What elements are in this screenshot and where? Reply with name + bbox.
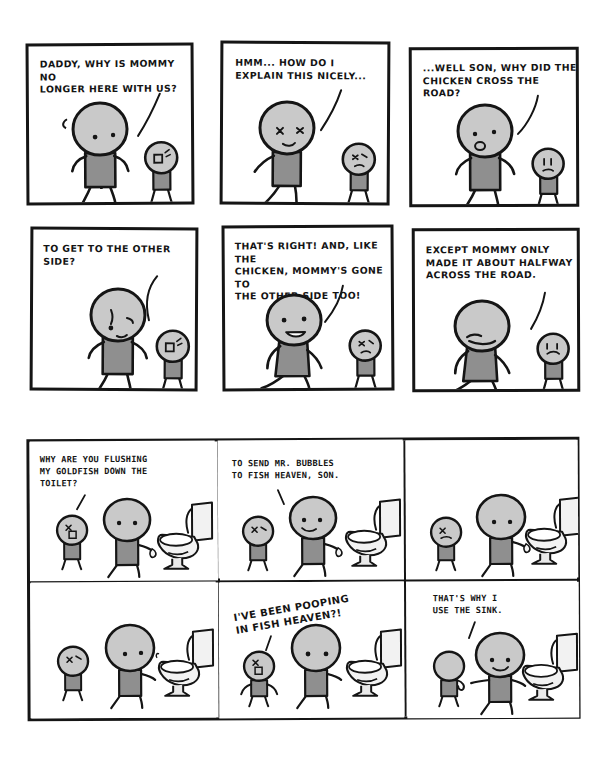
- dialogue-text: HMM... HOW DO I EXPLAIN THIS NICELY...: [235, 57, 387, 83]
- character-child: [149, 326, 197, 391]
- panel-strip1-5: THAT'S RIGHT! AND, LIKE THE CHICKEN, MOM…: [221, 224, 394, 391]
- character-child: [529, 331, 577, 393]
- character-child: [51, 640, 95, 702]
- panel-strip1-4: TO GET TO THE OTHER SIDE?: [30, 227, 199, 392]
- character-father: [249, 294, 344, 392]
- panel-strip2-4: [31, 582, 217, 719]
- dialogue-text: TO SEND MR. BUBBLES TO FISH HEAVEN, SON.: [232, 457, 402, 482]
- panel-strip2-6: THAT'S WHY I USE THE SINK.: [407, 582, 580, 719]
- toilet: [342, 496, 403, 574]
- dialogue-text: EXCEPT MOMMY ONLY MADE IT ABOUT HALFWAY …: [426, 244, 578, 282]
- character-child: [424, 512, 468, 572]
- toilet: [154, 499, 215, 577]
- character-child: [137, 138, 185, 204]
- character-child: [341, 328, 389, 390]
- dialogue-text: TO GET TO THE OTHER SIDE?: [43, 243, 197, 269]
- panel-strip2-5: I'VE BEEN POOPING IN FISH HEAVEN?!: [219, 582, 405, 719]
- panel-strip2-1: WHY ARE YOU FLUSHING MY GOLDFISH DOWN TH…: [30, 441, 216, 580]
- character-father: [57, 101, 146, 206]
- toilet: [343, 626, 404, 706]
- panel-strip1-6: EXCEPT MOMMY ONLY MADE IT ABOUT HALFWAY …: [412, 228, 581, 393]
- panel-strip1-2: HMM... HOW DO I EXPLAIN THIS NICELY...: [220, 41, 391, 206]
- panel-strip2-3: [406, 440, 579, 579]
- character-child: [50, 509, 94, 571]
- character-father: [442, 104, 532, 207]
- character-father: [239, 100, 332, 206]
- toilet: [519, 630, 579, 710]
- comic-page: DADDY, WHY IS MOMMY NO LONGER HERE WITH …: [0, 0, 602, 762]
- panel-strip1-1: DADDY, WHY IS MOMMY NO LONGER HERE WITH …: [26, 42, 195, 205]
- character-child: [236, 510, 280, 572]
- toilet: [522, 494, 578, 572]
- dialogue-text: ...WELL SON, WHY DID THE CHICKEN CROSS T…: [423, 62, 578, 100]
- toilet: [155, 626, 216, 706]
- dialogue-text: WHY ARE YOU FLUSHING MY GOLDFISH DOWN TH…: [40, 453, 210, 490]
- character-father: [437, 301, 531, 392]
- dialogue-text: DADDY, WHY IS MOMMY NO LONGER HERE WITH …: [40, 58, 190, 97]
- character-child: [235, 644, 283, 708]
- character-child: [524, 146, 572, 208]
- panel-strip1-3: ...WELL SON, WHY DID THE CHICKEN CROSS T…: [409, 47, 580, 208]
- panel-strip2-2: TO SEND MR. BUBBLES TO FISH HEAVEN, SON.: [218, 440, 404, 579]
- character-child: [335, 140, 383, 204]
- dialogue-text: THAT'S WHY I USE THE SINK.: [433, 592, 580, 617]
